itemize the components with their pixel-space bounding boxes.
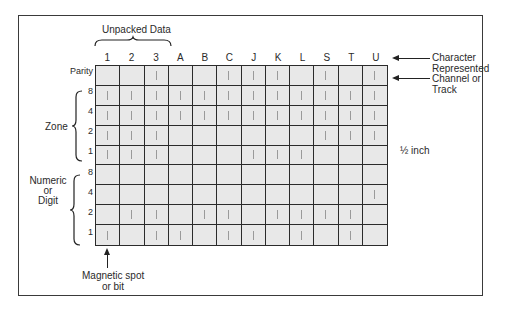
grid-cell bbox=[242, 165, 266, 185]
grid-cell bbox=[242, 146, 266, 166]
row-label: 4 bbox=[88, 187, 93, 197]
grid-cell bbox=[193, 165, 217, 185]
magnetic-bit-mark bbox=[325, 71, 326, 80]
grid-cell bbox=[193, 225, 217, 245]
grid-cell bbox=[266, 126, 290, 146]
column-header: K bbox=[266, 52, 290, 63]
grid-cell bbox=[193, 66, 217, 86]
magnetic-bit-mark bbox=[350, 91, 351, 100]
magnetic-bit-mark bbox=[228, 231, 229, 240]
magnetic-bit-mark bbox=[107, 231, 108, 240]
numeric-digit-label: Numeric or Digit bbox=[28, 176, 68, 206]
magnetic-bit-mark bbox=[277, 210, 278, 219]
channel-or-track-label: Channel or Track bbox=[432, 73, 481, 95]
magnetic-bit-mark bbox=[253, 231, 254, 240]
grid-cell bbox=[169, 146, 193, 166]
grid-cell bbox=[339, 66, 363, 86]
grid-cell bbox=[363, 165, 387, 185]
column-header: 3 bbox=[144, 52, 168, 63]
column-header: L bbox=[290, 52, 314, 63]
column-header: S bbox=[315, 52, 339, 63]
magnetic-bit-mark bbox=[277, 150, 278, 159]
magnetic-bit-mark bbox=[228, 210, 229, 219]
magnetic-bit-mark bbox=[277, 111, 278, 120]
magnetic-bit-mark bbox=[131, 131, 132, 140]
grid-cell bbox=[314, 146, 338, 166]
magnetic-bit-mark bbox=[374, 111, 375, 120]
grid-cell bbox=[145, 205, 169, 225]
grid-cell bbox=[266, 185, 290, 205]
grid-cell bbox=[217, 126, 241, 146]
grid-cell bbox=[242, 225, 266, 245]
row-label: 1 bbox=[88, 146, 93, 156]
grid-cell bbox=[169, 86, 193, 106]
grid-cell bbox=[290, 205, 314, 225]
grid-cell bbox=[169, 205, 193, 225]
magnetic-bit-mark bbox=[301, 210, 302, 219]
grid-cell bbox=[363, 185, 387, 205]
grid-cell bbox=[96, 66, 120, 86]
magnetic-bit-mark bbox=[374, 71, 375, 80]
grid-cell bbox=[363, 126, 387, 146]
grid-cell bbox=[169, 66, 193, 86]
magnetic-bit-mark bbox=[277, 91, 278, 100]
grid-cell bbox=[314, 185, 338, 205]
tape-grid bbox=[95, 65, 388, 246]
magnetic-bit-mark bbox=[374, 190, 375, 199]
grid-cell bbox=[193, 185, 217, 205]
grid-cell bbox=[290, 165, 314, 185]
zone-brace bbox=[72, 90, 84, 162]
grid-cell bbox=[363, 106, 387, 126]
arrow-line-channel bbox=[398, 78, 430, 79]
grid-cell bbox=[290, 126, 314, 146]
magnetic-bit-mark bbox=[180, 91, 181, 100]
grid-cell bbox=[242, 126, 266, 146]
grid-cell bbox=[193, 86, 217, 106]
magnetic-bit-mark bbox=[204, 91, 205, 100]
grid-cell bbox=[193, 106, 217, 126]
grid-cell bbox=[217, 165, 241, 185]
grid-cell bbox=[290, 66, 314, 86]
grid-cell bbox=[145, 225, 169, 245]
magnetic-bit-mark bbox=[204, 210, 205, 219]
grid-cell bbox=[290, 106, 314, 126]
magnetic-bit-mark bbox=[301, 91, 302, 100]
column-header: 1 bbox=[95, 52, 119, 63]
grid-cell bbox=[314, 86, 338, 106]
row-label: 1 bbox=[88, 227, 93, 237]
grid-cell bbox=[96, 106, 120, 126]
magnetic-bit-mark bbox=[374, 91, 375, 100]
magnetic-bit-mark bbox=[253, 111, 254, 120]
grid-cell bbox=[145, 126, 169, 146]
magnetic-bit-mark bbox=[204, 111, 205, 120]
grid-cell bbox=[314, 66, 338, 86]
grid-cell bbox=[169, 106, 193, 126]
grid-cell bbox=[193, 205, 217, 225]
magnetic-label-line1: Magnetic spot bbox=[82, 270, 144, 281]
magnetic-bit-mark bbox=[350, 231, 351, 240]
grid-cell bbox=[145, 146, 169, 166]
grid-cell bbox=[217, 86, 241, 106]
grid-cell bbox=[145, 165, 169, 185]
grid-cell bbox=[339, 205, 363, 225]
grid-cell bbox=[120, 106, 144, 126]
grid-cell bbox=[96, 146, 120, 166]
magnetic-bit-mark bbox=[156, 111, 157, 120]
magnetic-bit-mark bbox=[156, 91, 157, 100]
grid-cell bbox=[120, 165, 144, 185]
column-header: C bbox=[217, 52, 241, 63]
grid-cell bbox=[242, 86, 266, 106]
magnetic-spot-label: Magnetic spot or bit bbox=[82, 270, 144, 292]
magnetic-bit-mark bbox=[107, 150, 108, 159]
zone-label: Zone bbox=[45, 121, 68, 132]
grid-cell bbox=[339, 185, 363, 205]
grid-cell bbox=[363, 225, 387, 245]
magnetic-bit-mark bbox=[180, 111, 181, 120]
column-header: T bbox=[339, 52, 363, 63]
grid-cell bbox=[169, 225, 193, 245]
unpacked-data-brace bbox=[94, 38, 172, 48]
grid-cell bbox=[169, 165, 193, 185]
magnetic-bit-mark bbox=[156, 71, 157, 80]
grid-cell bbox=[120, 66, 144, 86]
magnetic-bit-mark bbox=[228, 71, 229, 80]
